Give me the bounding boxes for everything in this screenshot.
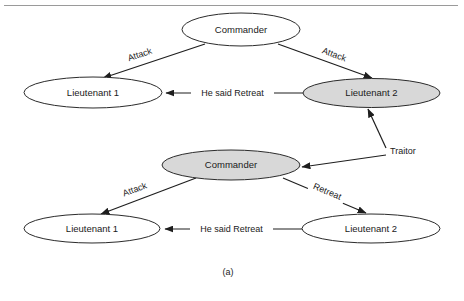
figure-root: Attack Attack He said Retreat Commander	[0, 0, 464, 301]
node-bottom-lieutenant-1[interactable]: Lieutenant 1	[24, 214, 160, 243]
edge-label-bottom-right-retreat-group: Retreat	[307, 179, 347, 205]
edge-label-top-he-said-retreat: He said Retreat	[201, 88, 264, 98]
edge-label-top-left-attack-group: Attack	[122, 44, 158, 66]
figure-caption: (a)	[223, 267, 234, 277]
annotation-label-traitor: Traitor	[390, 146, 416, 156]
node-bottom-lieutenant-2[interactable]: Lieutenant 2	[302, 214, 440, 243]
edge-label-top-he-said-retreat-group: He said Retreat	[191, 86, 274, 100]
scenario-traitor-commander: Attack Retreat He said Retreat Commander	[24, 150, 440, 243]
node-top-lieutenant-2[interactable]: Lieutenant 2	[303, 79, 440, 108]
annotation-arrow-traitor-to-top-lieutenant2	[368, 109, 386, 148]
scenario-traitor-lieutenant: Attack Attack He said Retreat Commander	[24, 13, 440, 148]
node-top-lieutenant-2-label: Lieutenant 2	[345, 87, 397, 98]
node-top-commander-label: Commander	[215, 24, 267, 35]
node-top-lieutenant-1[interactable]: Lieutenant 1	[24, 77, 162, 108]
node-top-lieutenant-1-label: Lieutenant 1	[67, 87, 119, 98]
edge-label-top-right-attack-group: Attack	[316, 44, 352, 67]
annotation-traitor-group: Traitor	[388, 145, 428, 158]
edge-label-bottom-he-said-retreat: He said Retreat	[200, 224, 263, 234]
edge-label-bottom-he-said-retreat-group: He said Retreat	[190, 222, 273, 236]
node-bottom-lieutenant-2-label: Lieutenant 2	[345, 223, 397, 234]
node-bottom-commander-label: Commander	[205, 159, 257, 170]
node-bottom-lieutenant-1-label: Lieutenant 1	[66, 223, 118, 234]
edge-label-bottom-left-attack-group: Attack	[117, 178, 153, 201]
node-top-commander[interactable]: Commander	[182, 13, 300, 46]
byzantine-generals-diagram: Attack Attack He said Retreat Commander	[0, 0, 464, 301]
node-bottom-commander[interactable]: Commander	[162, 150, 300, 180]
edge-label-bottom-right-retreat: Retreat	[312, 181, 344, 202]
annotation-arrow-traitor-to-bottom-commander	[302, 155, 386, 167]
